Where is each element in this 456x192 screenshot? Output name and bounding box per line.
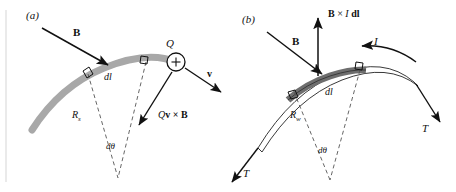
force-expression-a: v × B xyxy=(165,109,187,120)
charge-label-a: Q xyxy=(166,38,174,49)
charged-stream-arc xyxy=(32,57,176,130)
panel-a-graphics xyxy=(6,10,221,182)
radius-label-a: Rs xyxy=(72,110,81,123)
tension-arrow-right-b xyxy=(416,84,440,122)
velocity-label-a: v xyxy=(207,69,212,79)
panel-a-tag: (a) xyxy=(26,10,39,21)
panel-b-graphics xyxy=(232,18,440,182)
velocity-arrow-a xyxy=(185,68,221,92)
angle-label-b: dθ xyxy=(318,146,327,155)
panel-b-tag: (b) xyxy=(242,14,255,25)
radius-subscript-b: w xyxy=(296,115,301,123)
line-element-label-b: dl xyxy=(325,87,333,97)
magnetic-field-label-b: B xyxy=(292,36,299,47)
angle-label-a: dθ xyxy=(106,142,115,151)
radius-line-right-b xyxy=(330,70,360,180)
diagram-vector-layer xyxy=(0,0,456,192)
magnetic-force-label-b: B × I dl xyxy=(328,9,360,19)
force-cross-symbol-b: × xyxy=(335,8,346,19)
magnetic-field-label-a: B xyxy=(73,27,80,38)
figure-canvas: (a) B dl Rs dθ Q v Qv × B (b) B B × I dl… xyxy=(0,0,456,192)
force-element-symbol-b: dl xyxy=(351,8,359,19)
line-element-label-a: dl xyxy=(104,72,112,82)
radius-label-b: Rw xyxy=(290,110,301,123)
force-field-symbol-b: B xyxy=(328,8,335,19)
lorentz-force-label-a: Qv × B xyxy=(158,110,188,120)
wire-band-fill-b xyxy=(258,67,414,148)
current-label-b: I xyxy=(374,36,378,47)
radius-line-left-a xyxy=(88,74,118,178)
radius-subscript-a: s xyxy=(78,115,81,123)
radius-line-left-b xyxy=(294,92,330,180)
current-direction-arrow-b xyxy=(362,46,416,62)
tension-label-left-b: T xyxy=(243,168,249,179)
tension-label-right-b: T xyxy=(422,123,428,134)
